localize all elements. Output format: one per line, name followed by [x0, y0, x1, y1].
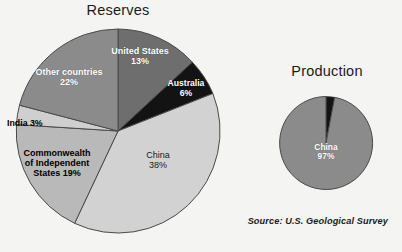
production-pie-chart	[279, 96, 373, 190]
reserves-chart-title: Reserves	[0, 2, 236, 18]
production-chart-title: Production	[258, 63, 396, 79]
reserves-pie-svg	[15, 28, 221, 234]
production-pie-svg	[279, 96, 373, 190]
reserves-pie-chart	[15, 28, 221, 234]
chart-figure: Reserves United States 13% Australia 6% …	[0, 0, 402, 252]
source-note: Source: U.S. Geological Survey	[248, 216, 388, 226]
pie-slice-china-production	[280, 97, 373, 190]
